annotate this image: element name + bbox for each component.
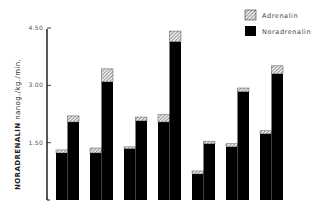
bar-adrenalin xyxy=(124,147,136,149)
bar-adrenalin xyxy=(170,31,182,42)
y-tick-label: 1.50 xyxy=(28,139,43,146)
bar-adrenalin xyxy=(90,148,102,153)
bar-noradrenalin xyxy=(124,149,136,200)
bar-noradrenalin xyxy=(260,134,272,200)
legend-label-noradrenalin: Noradrenalin xyxy=(262,28,311,36)
bar-adrenalin xyxy=(68,116,80,122)
bar-adrenalin xyxy=(238,88,250,92)
bar-adrenalin xyxy=(272,66,284,74)
bars xyxy=(56,31,283,200)
y-axis-label-units: nanog./kg./min. xyxy=(14,59,22,123)
legend-label-adrenalin: Adrenalin xyxy=(262,12,298,20)
bar-noradrenalin xyxy=(68,122,80,200)
y-tick-label: 3.00 xyxy=(28,81,43,88)
bar-noradrenalin xyxy=(272,74,284,200)
bar-noradrenalin xyxy=(226,147,238,200)
legend: Adrenalin Noradrenalin xyxy=(245,10,311,36)
y-tick-label: 4.50 xyxy=(28,24,43,31)
bar-adrenalin xyxy=(56,150,68,153)
bar-adrenalin xyxy=(102,69,114,82)
bar-noradrenalin xyxy=(136,121,148,200)
bar-adrenalin xyxy=(260,131,272,134)
legend-swatch-adrenalin xyxy=(245,10,256,20)
bar-adrenalin xyxy=(226,144,238,147)
bar-adrenalin xyxy=(136,117,148,121)
y-axis-label: NORADRENALIN nanog./kg./min. xyxy=(14,59,22,190)
bar-noradrenalin xyxy=(90,153,102,200)
bar-noradrenalin xyxy=(170,42,182,200)
bar-noradrenalin xyxy=(102,82,114,200)
bar-noradrenalin xyxy=(238,92,250,200)
legend-swatch-noradrenalin xyxy=(245,26,256,36)
stacked-bar-chart: 1.503.004.50 NORADRENALIN nanog./kg./min… xyxy=(0,0,317,209)
bar-adrenalin xyxy=(158,115,170,122)
bar-adrenalin xyxy=(204,141,216,144)
bar-noradrenalin xyxy=(192,174,204,200)
bar-noradrenalin xyxy=(204,144,216,200)
bar-noradrenalin xyxy=(56,153,68,200)
bar-noradrenalin xyxy=(158,122,170,200)
y-axis-label-bold: NORADRENALIN xyxy=(14,122,22,190)
bar-adrenalin xyxy=(192,171,204,174)
